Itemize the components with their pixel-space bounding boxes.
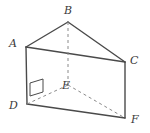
- geometry-figure: A B C D E F: [0, 0, 150, 133]
- prism-drawing-canvas: [0, 0, 150, 133]
- vertex-label-E: E: [62, 80, 70, 91]
- vertex-label-C: C: [130, 55, 138, 66]
- edge-BC: [68, 22, 125, 62]
- edge-EF: [68, 85, 125, 118]
- vertex-label-B: B: [64, 5, 72, 16]
- edge-AC: [26, 47, 125, 62]
- right-angle-marker-icon: [30, 79, 43, 96]
- edge-AD: [26, 47, 27, 104]
- vertex-label-F: F: [131, 114, 139, 125]
- vertex-label-D: D: [9, 100, 18, 111]
- edge-DF: [27, 104, 125, 118]
- edge-AB: [26, 22, 68, 47]
- vertex-label-A: A: [9, 38, 17, 49]
